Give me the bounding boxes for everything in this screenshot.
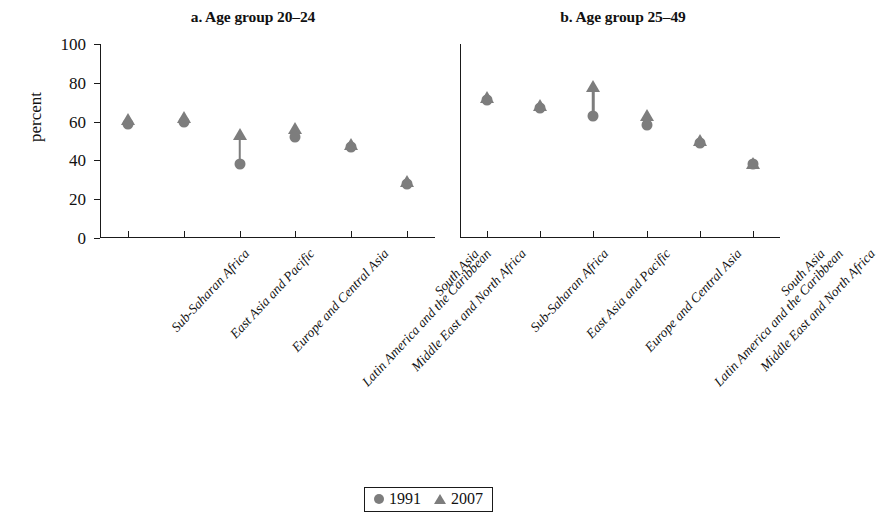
triangle-marker-icon (533, 99, 547, 111)
triangle-marker-icon (288, 122, 302, 134)
x-tick-0 (487, 231, 488, 238)
x-axis-line-b (460, 237, 780, 238)
y-tick-60: 60 (94, 122, 100, 123)
triangle-marker-icon (746, 157, 760, 169)
y-tick-label-0: 0 (78, 229, 87, 249)
legend-item-1991: 1991 (374, 490, 421, 508)
triangle-marker-icon (344, 138, 358, 150)
x-tick-5 (753, 231, 754, 238)
circle-marker-icon (122, 118, 133, 129)
triangle-marker-icon (693, 134, 707, 146)
x-tick-4 (351, 231, 352, 238)
y-tick-40: 40 (94, 160, 100, 161)
panel-b-title: b. Age group 25–49 (446, 8, 792, 26)
legend-label-1991: 1991 (389, 490, 421, 508)
y-tick-80: 80 (94, 83, 100, 84)
x-tick-1 (540, 231, 541, 238)
chart-legend: 1991 2007 (364, 487, 493, 512)
triangle-marker-icon (480, 91, 494, 103)
plot-area-b (460, 44, 780, 238)
y-tick-label-80: 80 (69, 74, 86, 94)
change-connector-2 (238, 135, 241, 164)
y-axis-label: percent (26, 92, 46, 142)
triangle-marker-icon (121, 113, 135, 125)
circle-marker-icon (641, 120, 652, 131)
x-axis-line-a (100, 237, 435, 238)
y-tick-label-20: 20 (69, 190, 86, 210)
x-tick-4 (700, 231, 701, 238)
y-axis-line-a (100, 44, 101, 238)
x-tick-1 (184, 231, 185, 238)
circle-marker-icon (290, 132, 301, 143)
triangle-marker-icon (177, 111, 191, 123)
y-tick-0: 0 (94, 238, 100, 239)
y-tick-100: 100 (94, 44, 100, 45)
circle-marker-icon (374, 494, 384, 504)
x-tick-2 (593, 231, 594, 238)
triangle-marker-icon (640, 109, 654, 121)
y-tick-label-100: 100 (61, 35, 87, 55)
y-tick-20: 20 (94, 199, 100, 200)
triangle-marker-icon (434, 494, 446, 504)
y-tick-label-60: 60 (69, 113, 86, 133)
chart-panel-b: b. Age group 25–49 Sub-Saharan AfricaEas… (446, 0, 792, 517)
x-tick-2 (240, 231, 241, 238)
x-tick-5 (407, 231, 408, 238)
chart-panel-a: a. Age group 20–24 percent 100806040200 … (0, 0, 446, 517)
x-tick-0 (128, 231, 129, 238)
legend-label-2007: 2007 (451, 490, 483, 508)
circle-marker-icon (178, 116, 189, 127)
x-tick-3 (647, 231, 648, 238)
circle-marker-icon (695, 137, 706, 148)
circle-marker-icon (402, 178, 413, 189)
circle-marker-icon (748, 159, 759, 170)
change-connector-2 (592, 87, 595, 116)
circle-marker-icon (481, 95, 492, 106)
y-axis-line-b (460, 44, 461, 238)
circle-marker-icon (346, 141, 357, 152)
panel-a-title: a. Age group 20–24 (0, 8, 446, 26)
triangle-marker-icon (400, 175, 414, 187)
x-tick-3 (295, 231, 296, 238)
legend-item-2007: 2007 (434, 490, 483, 508)
y-tick-label-40: 40 (69, 151, 86, 171)
circle-marker-icon (535, 103, 546, 114)
plot-area-a: 100806040200 (100, 44, 435, 238)
